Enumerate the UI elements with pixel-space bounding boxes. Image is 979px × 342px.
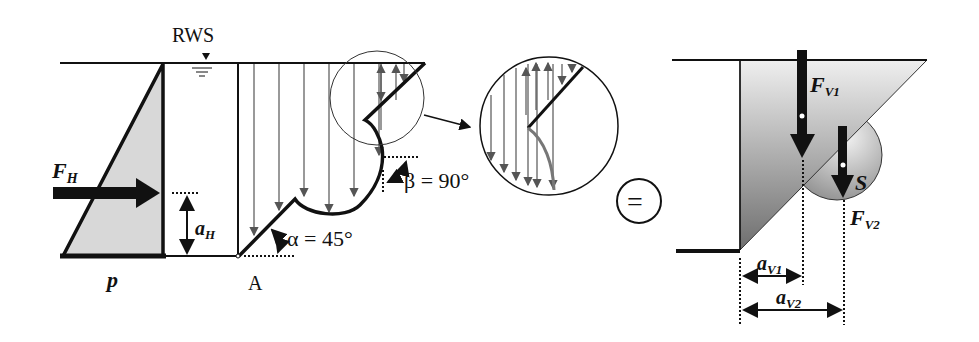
curved-surface-panel: α = 45° β = 90° A — [236, 51, 470, 294]
fh-label: FH — [51, 158, 79, 186]
point-a-marker — [236, 254, 240, 258]
s-label: S — [855, 170, 867, 195]
alpha-label: α = 45° — [287, 226, 353, 251]
point-a-label: A — [248, 272, 263, 294]
rws-label: RWS — [172, 24, 214, 46]
rws-triangle-icon — [202, 53, 210, 60]
av2-label: aV2 — [776, 286, 802, 311]
av1-label: aV1 — [757, 252, 782, 277]
fh-arrow-shaft — [53, 187, 138, 199]
alpha-arc — [272, 230, 279, 252]
beta-label: β = 90° — [404, 168, 469, 193]
detail-zoom-view — [480, 57, 618, 195]
fv2-label: FV2 — [849, 205, 880, 232]
vertical-force-panel: FV1 S FV2 aV1 aV2 — [672, 50, 927, 325]
pressure-triangle — [63, 64, 163, 256]
svg-text:=: = — [627, 186, 643, 217]
detail-pointer-arrow — [424, 115, 470, 127]
horizontal-pressure-panel: RWS FH aH p — [51, 24, 425, 292]
ah-label: aH — [195, 217, 216, 242]
water-level-symbol-icon — [192, 68, 212, 76]
p-label: p — [105, 267, 118, 292]
hydrostatic-force-diagram: RWS FH aH p — [0, 0, 979, 342]
equals-symbol: = — [617, 179, 661, 223]
